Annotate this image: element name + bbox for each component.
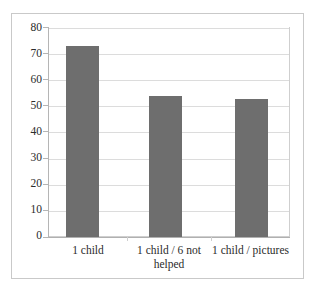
category-label-1-child-pictures: 1 child / pictures	[211, 243, 290, 257]
bar-1-child-6-not-helped	[149, 96, 182, 237]
value-axis-label-0: 0	[12, 230, 42, 242]
category-label-1-child-6-not-helped: 1 child / 6 not helped	[127, 243, 211, 271]
value-axis-label-20: 20	[12, 178, 42, 190]
value-axis-label-40: 40	[12, 126, 42, 138]
category-axis-line	[49, 237, 290, 238]
value-axis-label-50: 50	[12, 100, 42, 112]
category-axis-labels: 1 child 1 child / 6 not helped 1 child /…	[49, 240, 290, 278]
plot-right-edge	[289, 27, 290, 238]
bar-1-child-pictures	[235, 99, 268, 238]
value-axis-label-60: 60	[12, 74, 42, 86]
category-label-line1: 1 child / pictures	[211, 243, 290, 257]
value-axis-label-30: 30	[12, 152, 42, 164]
gridline-80	[49, 28, 289, 29]
category-label-1-child: 1 child	[49, 243, 127, 257]
plot-area	[49, 28, 289, 237]
value-axis-label-70: 70	[12, 48, 42, 60]
bar-1-child	[66, 46, 99, 237]
category-label-line1: 1 child	[49, 243, 127, 257]
value-axis-line	[48, 27, 49, 238]
value-axis-label-10: 10	[12, 204, 42, 216]
value-axis-labels: 80 70 60 50 40 30 20 10 0	[8, 0, 42, 291]
category-label-line1: 1 child / 6 not	[127, 243, 211, 257]
value-axis-label-80: 80	[12, 22, 42, 34]
category-label-line2: helped	[127, 257, 211, 271]
